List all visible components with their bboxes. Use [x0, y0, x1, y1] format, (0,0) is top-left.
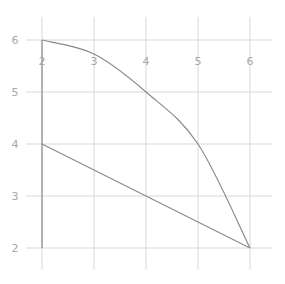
x-tick-label: 6	[247, 55, 254, 68]
x-tick-label: 2	[39, 55, 46, 68]
y-tick-label: 4	[12, 138, 19, 151]
x-tick-label: 3	[91, 55, 98, 68]
y-tick-label: 6	[12, 34, 19, 47]
x-tick-label: 5	[195, 55, 202, 68]
x-tick-label: 4	[143, 55, 150, 68]
y-tick-label: 2	[12, 242, 19, 255]
y-tick-label: 3	[12, 190, 19, 203]
y-tick-label: 5	[12, 86, 19, 99]
chart: 2345623456	[0, 0, 285, 284]
